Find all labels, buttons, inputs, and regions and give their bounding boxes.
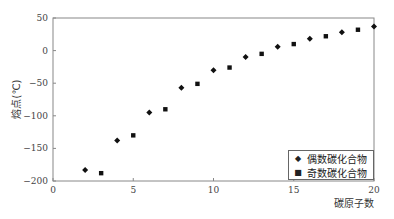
y-axis: 500−50−100−150−200 xyxy=(23,13,56,186)
square-marker-icon: ■ xyxy=(293,168,303,177)
x-tick-label: 5 xyxy=(130,185,136,195)
legend-label-even: 偶数碳化合物 xyxy=(307,151,367,166)
square-point xyxy=(131,133,135,137)
legend-label-odd: 奇数碳化合物 xyxy=(307,165,367,180)
square-point xyxy=(259,52,263,56)
diamond-point xyxy=(114,138,120,144)
diamond-point xyxy=(339,29,345,35)
diamond-point xyxy=(82,167,88,173)
y-tick-label: 50 xyxy=(37,13,49,23)
square-point xyxy=(163,107,167,111)
square-point xyxy=(99,171,103,175)
square-point xyxy=(324,34,328,38)
diamond-point xyxy=(243,54,249,60)
diamond-marker-icon: ◆ xyxy=(293,154,303,163)
x-tick-label: 20 xyxy=(368,185,380,195)
y-tick-label: 0 xyxy=(42,46,48,56)
square-point xyxy=(292,42,296,46)
x-tick-label: 10 xyxy=(208,185,220,195)
y-tick-label: −150 xyxy=(23,143,48,153)
x-tick-label: 15 xyxy=(288,185,300,195)
legend-item-odd: ■ 奇数碳化合物 xyxy=(289,165,373,179)
diamond-point xyxy=(275,44,281,50)
legend-item-even: ◆ 偶数碳化合物 xyxy=(289,151,373,165)
diamond-point xyxy=(307,36,313,42)
square-point xyxy=(195,82,199,86)
scatter-chart: 500−50−100−150−200 05101520 熔点(℃) 碳原子数 xyxy=(0,0,394,219)
y-tick-label: −50 xyxy=(29,78,48,88)
square-point xyxy=(227,65,231,69)
y-axis-title: 熔点(℃) xyxy=(10,79,22,118)
diamond-point xyxy=(146,110,152,116)
y-tick-label: −200 xyxy=(23,176,48,186)
x-axis-title: 碳原子数 xyxy=(334,197,374,209)
square-point xyxy=(356,28,360,32)
diamond-point xyxy=(211,67,217,73)
y-tick-label: −100 xyxy=(23,111,48,121)
diamond-point xyxy=(178,85,184,91)
x-tick-label: 0 xyxy=(50,185,56,195)
legend: ◆ 偶数碳化合物 ■ 奇数碳化合物 xyxy=(288,150,374,180)
diamond-point xyxy=(371,23,377,29)
